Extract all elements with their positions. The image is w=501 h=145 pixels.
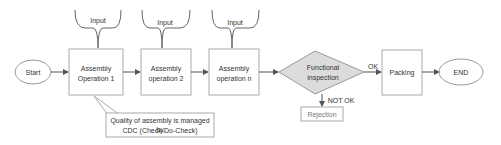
op1-label-line2: Operation 1 (69, 74, 123, 83)
op1-label-line1: Assembly (69, 64, 123, 73)
input-label-1: Input (85, 16, 111, 25)
rejection-label: Rejection (301, 110, 343, 119)
end-label: END (439, 68, 483, 77)
opn-label-line1: Assembly (209, 64, 259, 73)
op2-label-line1: Assembly (141, 64, 191, 73)
input-brace-2 (142, 10, 190, 48)
start-label: Start (15, 68, 51, 77)
input-brace-3 (212, 10, 259, 48)
inspect-label-line2: inspection (290, 73, 356, 82)
packing-label: Packing (382, 68, 422, 77)
inspect-label-line1: Functional (290, 63, 356, 72)
not-ok-label: NOT OK (326, 96, 356, 105)
ok-label: OK (365, 62, 381, 71)
input-label-3: Input (222, 18, 248, 27)
op2-label-line2: operation 2 (141, 74, 191, 83)
callout-line2: CDC (Check-Do-Check) (106, 126, 214, 135)
opn-label-line2: operation n (209, 74, 259, 83)
input-label-2: Input (152, 18, 178, 27)
callout-pointer (94, 96, 120, 115)
